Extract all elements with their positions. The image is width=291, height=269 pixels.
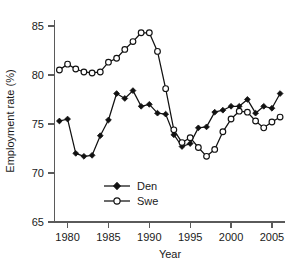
- data-point: [253, 118, 259, 124]
- chart-canvas: 6570758085 198019851990199520002005 Year…: [0, 0, 291, 269]
- data-point: [228, 116, 234, 122]
- data-point: [81, 69, 87, 75]
- y-axis-title: Employment rate (%): [4, 69, 16, 172]
- data-point: [114, 55, 120, 61]
- data-point: [277, 91, 283, 97]
- data-point: [130, 39, 136, 45]
- data-point: [97, 133, 103, 139]
- data-point: [179, 140, 185, 146]
- data-point: [163, 86, 169, 92]
- data-point: [106, 59, 112, 65]
- data-point: [196, 145, 202, 151]
- y-tick-label: 85: [32, 20, 44, 32]
- data-point: [138, 103, 144, 109]
- series-den: [57, 88, 283, 159]
- data-point: [57, 67, 63, 73]
- legend-marker-swe: [114, 198, 120, 204]
- data-point: [204, 153, 210, 159]
- data-point: [212, 147, 218, 153]
- data-point: [97, 69, 103, 75]
- x-tick-label: 1985: [96, 231, 120, 243]
- y-tick-label: 80: [32, 69, 44, 81]
- data-point: [73, 66, 79, 72]
- y-axis-ticks: 6570758085: [32, 20, 55, 228]
- legend-label-swe: Swe: [137, 195, 158, 207]
- data-point: [57, 118, 63, 124]
- y-tick-label: 75: [32, 118, 44, 130]
- data-point: [122, 47, 128, 53]
- data-point: [171, 127, 177, 133]
- data-point: [146, 30, 152, 36]
- data-point: [89, 70, 95, 76]
- data-point: [114, 91, 120, 97]
- x-axis-title: Year: [159, 248, 182, 260]
- data-point: [187, 141, 193, 147]
- data-point: [89, 152, 95, 158]
- data-point: [220, 129, 226, 135]
- x-tick-label: 1995: [178, 231, 202, 243]
- data-point: [236, 108, 242, 114]
- series-layer: [57, 30, 283, 159]
- series-swe: [57, 30, 283, 159]
- data-point: [65, 61, 71, 67]
- data-point: [155, 49, 161, 55]
- data-point: [220, 107, 226, 113]
- data-point: [269, 105, 275, 111]
- data-point: [228, 103, 234, 109]
- employment-rate-chart: 6570758085 198019851990199520002005 Year…: [0, 0, 291, 269]
- data-point: [204, 124, 210, 130]
- data-point: [81, 153, 87, 159]
- y-tick-label: 65: [32, 216, 44, 228]
- legend-label-den: Den: [137, 180, 157, 192]
- data-point: [261, 125, 267, 131]
- x-tick-label: 2005: [260, 231, 284, 243]
- data-point: [187, 135, 193, 141]
- x-tick-label: 2000: [219, 231, 243, 243]
- data-point: [65, 116, 71, 122]
- x-tick-label: 1990: [137, 231, 161, 243]
- data-point: [138, 30, 144, 36]
- data-point: [106, 117, 112, 123]
- data-point: [195, 125, 201, 131]
- x-tick-label: 1980: [55, 231, 79, 243]
- data-point: [163, 111, 169, 117]
- data-point: [269, 119, 275, 125]
- data-point: [245, 109, 251, 115]
- series-line-swe: [59, 33, 280, 157]
- data-point: [73, 150, 79, 156]
- data-point: [277, 114, 283, 120]
- legend-marker-den: [113, 182, 120, 190]
- data-point: [212, 109, 218, 115]
- y-tick-label: 70: [32, 167, 44, 179]
- chart-legend: Den Swe: [104, 180, 158, 207]
- x-axis-ticks: 198019851990199520002005: [55, 222, 284, 243]
